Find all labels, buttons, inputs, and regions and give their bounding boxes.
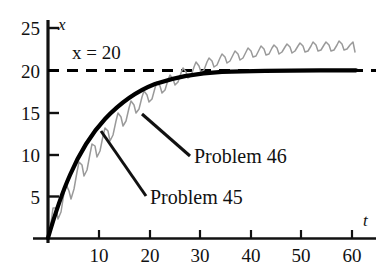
figure-canvas: 25 20 15 10 5 10 20 30 40 50 60 x t x = …: [0, 0, 389, 275]
x-tick-labels: 10 20 30 40 50 60: [90, 245, 362, 266]
x-tick-label-30: 30: [191, 245, 210, 266]
callout-leader-problem-45: [101, 131, 146, 196]
x-tick-label-20: 20: [141, 245, 160, 266]
y-tick-label-25: 25: [21, 18, 40, 39]
asymptote-label: x = 20: [72, 42, 121, 63]
callout-leader-problem-46: [142, 114, 190, 156]
y-tick-label-15: 15: [21, 103, 40, 124]
x-tick-label-50: 50: [292, 245, 311, 266]
x-tick-label-10: 10: [90, 245, 109, 266]
y-tick-label-10: 10: [21, 145, 40, 166]
callout-label-problem-46: Problem 46: [194, 145, 287, 167]
y-tick-label-5: 5: [31, 187, 41, 208]
chart-svg: 25 20 15 10 5 10 20 30 40 50 60 x t x = …: [0, 0, 389, 275]
x-axis-label: t: [363, 211, 369, 230]
y-axis-label: x: [57, 15, 66, 34]
y-tick-labels: 25 20 15 10 5: [21, 18, 40, 208]
y-tick-label-20: 20: [21, 61, 40, 82]
x-tick-label-40: 40: [242, 245, 261, 266]
callout-label-problem-45: Problem 45: [150, 186, 243, 208]
x-tick-label-60: 60: [343, 245, 362, 266]
y-axis-ticks: [48, 28, 59, 197]
